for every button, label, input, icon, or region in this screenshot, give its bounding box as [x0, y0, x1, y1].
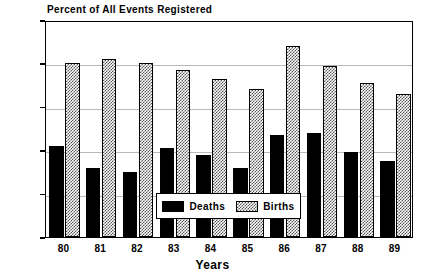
bar-deaths-82: [123, 172, 138, 237]
x-axis-tick-label-89: 89: [380, 243, 410, 254]
x-axis-tick-label-84: 84: [196, 243, 226, 254]
bar-deaths-86: [270, 135, 285, 237]
bar-deaths-89: [380, 161, 395, 237]
gridline: [46, 109, 412, 110]
x-axis-tick-label-80: 80: [48, 243, 78, 254]
legend-item-births: Births: [236, 201, 294, 212]
bar-deaths-87: [307, 133, 322, 237]
x-axis-tick-label-88: 88: [343, 243, 373, 254]
bar-deaths-88: [344, 152, 359, 237]
chart-title: Percent of All Events Registered: [47, 4, 212, 16]
x-axis-tick-label-81: 81: [85, 243, 115, 254]
bar-deaths-80: [49, 146, 64, 237]
x-axis-tick-label-85: 85: [232, 243, 262, 254]
x-axis-tick-label-86: 86: [269, 243, 299, 254]
bar-births-87: [323, 66, 338, 237]
legend-swatch-deaths-icon: [162, 201, 184, 212]
chart-legend: Deaths Births: [156, 193, 301, 219]
x-axis-tick-label-82: 82: [122, 243, 152, 254]
legend-swatch-births-icon: [236, 201, 258, 212]
bar-births-81: [102, 59, 117, 237]
x-axis-tick-label-83: 83: [159, 243, 189, 254]
legend-item-deaths: Deaths: [162, 201, 225, 212]
bar-births-89: [396, 94, 411, 237]
bar-chart: Percent of All Events Registered 0%20%40…: [0, 0, 425, 278]
bar-deaths-81: [86, 168, 101, 237]
bar-births-82: [139, 63, 154, 237]
legend-label-deaths: Deaths: [189, 201, 225, 212]
gridline: [46, 65, 412, 66]
legend-label-births: Births: [263, 201, 294, 212]
bar-births-88: [360, 83, 375, 237]
bar-births-80: [65, 63, 80, 237]
x-axis-title: Years: [0, 258, 425, 272]
x-axis-tick-label-87: 87: [306, 243, 336, 254]
